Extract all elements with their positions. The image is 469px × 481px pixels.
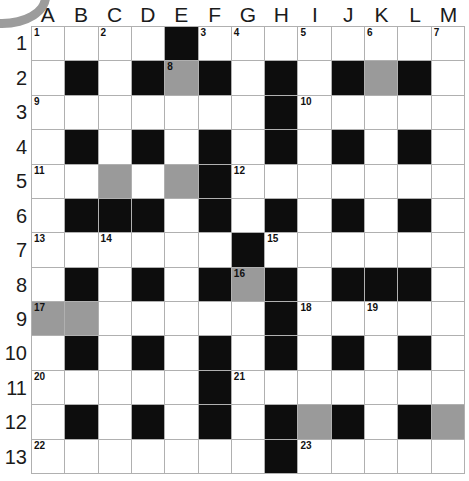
cell-K12[interactable] — [365, 405, 397, 438]
cell-C1[interactable]: 2 — [99, 27, 131, 60]
cell-J5[interactable] — [332, 165, 364, 198]
cell-B1[interactable] — [65, 27, 97, 60]
cell-L1[interactable] — [398, 27, 430, 60]
cell-K3[interactable] — [365, 96, 397, 129]
cell-K5[interactable] — [365, 165, 397, 198]
cell-J1[interactable] — [332, 27, 364, 60]
cell-I7[interactable] — [298, 233, 330, 266]
cell-B11[interactable] — [65, 371, 97, 404]
cell-J13[interactable] — [332, 440, 364, 473]
cell-F13[interactable] — [199, 440, 231, 473]
cell-M8[interactable] — [432, 268, 464, 301]
cell-I11[interactable] — [298, 371, 330, 404]
cell-G3[interactable] — [232, 96, 264, 129]
cell-B7[interactable] — [65, 233, 97, 266]
cell-G1[interactable]: 4 — [232, 27, 264, 60]
cell-A10[interactable] — [32, 336, 64, 369]
cell-F1[interactable]: 3 — [199, 27, 231, 60]
cell-C8[interactable] — [99, 268, 131, 301]
cell-C11[interactable] — [99, 371, 131, 404]
cell-J7[interactable] — [332, 233, 364, 266]
cell-C12[interactable] — [99, 405, 131, 438]
cell-A12[interactable] — [32, 405, 64, 438]
cell-K1[interactable]: 6 — [365, 27, 397, 60]
cell-E8[interactable] — [165, 268, 197, 301]
cell-L13[interactable] — [398, 440, 430, 473]
cell-E9[interactable] — [165, 302, 197, 335]
cell-K10[interactable] — [365, 336, 397, 369]
cell-K2[interactable] — [365, 61, 397, 94]
cell-D5[interactable] — [132, 165, 164, 198]
cell-I8[interactable] — [298, 268, 330, 301]
cell-H1[interactable] — [265, 27, 297, 60]
cell-G8[interactable]: 16 — [232, 268, 264, 301]
cell-M12[interactable] — [432, 405, 464, 438]
cell-D3[interactable] — [132, 96, 164, 129]
cell-L11[interactable] — [398, 371, 430, 404]
cell-F7[interactable] — [199, 233, 231, 266]
cell-G4[interactable] — [232, 130, 264, 163]
cell-C2[interactable] — [99, 61, 131, 94]
cell-E2[interactable]: 8 — [165, 61, 197, 94]
cell-M10[interactable] — [432, 336, 464, 369]
cell-A11[interactable]: 20 — [32, 371, 64, 404]
cell-C4[interactable] — [99, 130, 131, 163]
cell-F9[interactable] — [199, 302, 231, 335]
cell-M1[interactable]: 7 — [432, 27, 464, 60]
cell-G11[interactable]: 21 — [232, 371, 264, 404]
cell-C7[interactable]: 14 — [99, 233, 131, 266]
cell-B3[interactable] — [65, 96, 97, 129]
cell-M5[interactable] — [432, 165, 464, 198]
cell-L5[interactable] — [398, 165, 430, 198]
cell-I13[interactable]: 23 — [298, 440, 330, 473]
cell-G10[interactable] — [232, 336, 264, 369]
cell-M13[interactable] — [432, 440, 464, 473]
cell-J11[interactable] — [332, 371, 364, 404]
cell-D1[interactable] — [132, 27, 164, 60]
cell-E6[interactable] — [165, 199, 197, 232]
cell-B13[interactable] — [65, 440, 97, 473]
cell-M9[interactable] — [432, 302, 464, 335]
cell-E12[interactable] — [165, 405, 197, 438]
cell-A3[interactable]: 9 — [32, 96, 64, 129]
cell-I5[interactable] — [298, 165, 330, 198]
cell-K4[interactable] — [365, 130, 397, 163]
cell-C13[interactable] — [99, 440, 131, 473]
cell-M6[interactable] — [432, 199, 464, 232]
cell-C3[interactable] — [99, 96, 131, 129]
cell-E4[interactable] — [165, 130, 197, 163]
cell-I6[interactable] — [298, 199, 330, 232]
cell-L9[interactable] — [398, 302, 430, 335]
cell-M7[interactable] — [432, 233, 464, 266]
cell-F3[interactable] — [199, 96, 231, 129]
cell-E11[interactable] — [165, 371, 197, 404]
cell-G6[interactable] — [232, 199, 264, 232]
cell-I2[interactable] — [298, 61, 330, 94]
cell-J3[interactable] — [332, 96, 364, 129]
cell-A13[interactable]: 22 — [32, 440, 64, 473]
cell-G12[interactable] — [232, 405, 264, 438]
cell-K9[interactable]: 19 — [365, 302, 397, 335]
cell-L7[interactable] — [398, 233, 430, 266]
cell-E5[interactable] — [165, 165, 197, 198]
cell-B9[interactable] — [65, 302, 97, 335]
cell-A7[interactable]: 13 — [32, 233, 64, 266]
cell-D13[interactable] — [132, 440, 164, 473]
cell-I3[interactable]: 10 — [298, 96, 330, 129]
cell-G13[interactable] — [232, 440, 264, 473]
cell-A8[interactable] — [32, 268, 64, 301]
cell-D11[interactable] — [132, 371, 164, 404]
cell-A1[interactable]: 1 — [32, 27, 64, 60]
cell-M11[interactable] — [432, 371, 464, 404]
cell-H5[interactable] — [265, 165, 297, 198]
cell-B5[interactable] — [65, 165, 97, 198]
cell-G5[interactable]: 12 — [232, 165, 264, 198]
cell-D7[interactable] — [132, 233, 164, 266]
cell-I4[interactable] — [298, 130, 330, 163]
cell-I12[interactable] — [298, 405, 330, 438]
cell-C10[interactable] — [99, 336, 131, 369]
cell-C9[interactable] — [99, 302, 131, 335]
cell-H7[interactable]: 15 — [265, 233, 297, 266]
cell-A6[interactable] — [32, 199, 64, 232]
cell-E3[interactable] — [165, 96, 197, 129]
